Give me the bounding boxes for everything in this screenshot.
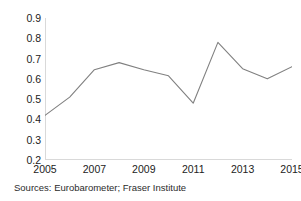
y-tick-label: 0.9 xyxy=(1,13,41,24)
x-tick-label: 2005 xyxy=(25,163,65,175)
x-tick-label: 2007 xyxy=(74,163,114,175)
axis-lines xyxy=(45,18,292,160)
x-axis-tick-labels: 200520072009201120132015 xyxy=(45,163,292,179)
x-tick-label: 2013 xyxy=(223,163,263,175)
y-tick-label: 0.5 xyxy=(1,94,41,105)
y-tick-label: 0.7 xyxy=(1,54,41,65)
y-tick-label: 0.6 xyxy=(1,74,41,85)
y-tick-label: 0.3 xyxy=(1,135,41,146)
plot-area xyxy=(45,18,292,160)
x-tick-label: 2015 xyxy=(272,163,301,175)
chart-figure: 0.90.80.70.60.50.40.30.2 200520072009201… xyxy=(0,0,301,201)
y-tick-label: 0.8 xyxy=(1,33,41,44)
data-series-line xyxy=(45,42,292,115)
source-note: Sources: Eurobarometer; Fraser Institute xyxy=(14,182,186,194)
x-tick-label: 2009 xyxy=(124,163,164,175)
line-chart-svg xyxy=(45,18,292,160)
x-tick-label: 2011 xyxy=(173,163,213,175)
y-tick-label: 0.4 xyxy=(1,114,41,125)
